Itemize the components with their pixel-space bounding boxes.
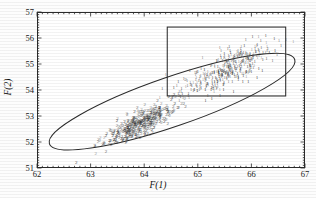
scatter-point: 2 xyxy=(97,139,100,144)
scatter-point: 1 xyxy=(207,93,210,98)
scatter-point: 1 xyxy=(285,37,288,42)
scatter-point: 1 xyxy=(190,86,193,91)
scatter-point: 1 xyxy=(223,51,226,56)
scatter-point: 1 xyxy=(229,50,232,55)
scatter-point: 1 xyxy=(202,71,205,76)
scatter-point: 1 xyxy=(235,51,238,56)
scatter-point: 1 xyxy=(188,68,191,73)
scatter-point: 2 xyxy=(133,122,136,127)
scatter-point: 1 xyxy=(173,85,176,90)
scatter-point: 2 xyxy=(160,112,163,117)
scatter-point: 1 xyxy=(256,54,259,59)
scatter-point: 1 xyxy=(248,62,251,67)
scatter-point: 1 xyxy=(198,86,201,91)
scatter-point: 1 xyxy=(245,37,248,42)
scatter-point: 1 xyxy=(214,74,217,79)
scatter-point: 1 xyxy=(171,94,174,99)
scatter-point: 1 xyxy=(211,96,214,101)
scatter-point: 1 xyxy=(227,56,230,61)
scatter-point: 1 xyxy=(256,74,259,79)
scatter-point: 1 xyxy=(274,47,277,52)
scatter-point: 1 xyxy=(243,43,246,48)
scatter-point: 2 xyxy=(150,110,153,115)
scatter-point: 2 xyxy=(129,127,132,132)
scatter-point: 1 xyxy=(218,66,221,71)
scatter-point: 2 xyxy=(158,104,161,109)
scatter-point: 2 xyxy=(143,109,146,114)
scatter-point: 2 xyxy=(136,105,139,110)
scatter-point: 1 xyxy=(276,52,279,57)
scatter-point: 1 xyxy=(241,70,244,75)
scatter-point: 1 xyxy=(240,43,243,48)
scatter-point: 2 xyxy=(143,122,146,127)
scatter-point: 1 xyxy=(252,54,255,59)
scatter-point: 2 xyxy=(121,138,124,143)
y-tick-label: 54 xyxy=(26,86,35,95)
scatter-points-layer: 2222222222222222222222222222222222222222… xyxy=(37,12,305,168)
scatter-point: 2 xyxy=(172,109,175,114)
scatter-point: 1 xyxy=(271,57,274,62)
scatter-point: 1 xyxy=(245,59,248,64)
scatter-point: 1 xyxy=(232,88,235,93)
y-tick-label: 56 xyxy=(26,34,35,43)
scatter-point: 1 xyxy=(278,38,281,43)
scatter-point: 1 xyxy=(265,32,268,37)
scatter-point: 1 xyxy=(239,50,242,55)
scatter-point: 2 xyxy=(116,118,119,123)
scatter-point: 1 xyxy=(204,97,207,102)
y-tick-label: 52 xyxy=(26,138,35,147)
scatter-point: 1 xyxy=(215,85,218,90)
y-tick-label: 55 xyxy=(26,60,35,69)
scatter-point: 1 xyxy=(210,86,213,91)
scatter-point: 1 xyxy=(195,76,198,81)
scatter-point: 2 xyxy=(139,135,142,140)
scatter-point: 1 xyxy=(178,98,181,103)
scatter-point: 2 xyxy=(102,141,105,146)
scatter-point: 1 xyxy=(234,67,237,72)
scatter-point: 1 xyxy=(273,36,276,41)
scatter-point: 2 xyxy=(156,116,159,121)
scatter-point: 1 xyxy=(247,79,250,84)
scatter-point: 2 xyxy=(108,137,111,142)
scatter-point: 1 xyxy=(206,72,209,77)
x-tick-label: 67 xyxy=(301,170,310,179)
scatter-point: 2 xyxy=(103,135,106,140)
scatter-point: 1 xyxy=(265,39,268,44)
scatter-point: 1 xyxy=(177,90,180,95)
scatter-point: 1 xyxy=(265,56,268,61)
scatter-point: 1 xyxy=(201,55,204,60)
scatter-point: 1 xyxy=(219,92,222,97)
scatter-point: 1 xyxy=(254,49,257,54)
scatter-point: 1 xyxy=(205,76,208,81)
scatter-point: 1 xyxy=(177,79,180,84)
scatter-point: 1 xyxy=(280,42,283,47)
scatter-point: 1 xyxy=(245,49,248,54)
scatter-point: 1 xyxy=(161,86,164,91)
scatter-point: 2 xyxy=(151,130,154,135)
scatter-point: 1 xyxy=(250,69,253,74)
scatter-point: 1 xyxy=(219,87,222,92)
scatter-point: 1 xyxy=(159,95,162,100)
scatter-point: 1 xyxy=(254,44,257,49)
scatter-point: 1 xyxy=(222,87,225,92)
scatter-point: 1 xyxy=(231,69,234,74)
scatter-point: 2 xyxy=(125,139,128,144)
x-axis-label: F(1) xyxy=(0,180,316,190)
scatter-point: 1 xyxy=(165,72,168,77)
scatter-point: 2 xyxy=(176,104,179,109)
scatter-point: 1 xyxy=(182,76,185,81)
scatter-point: 2 xyxy=(124,133,127,138)
scatter-point: 1 xyxy=(251,33,254,38)
scatter-point: 1 xyxy=(251,61,254,66)
x-tick-label: 62 xyxy=(33,170,42,179)
scatter-point: 1 xyxy=(257,33,260,38)
scatter-point: 2 xyxy=(75,159,78,164)
scatter-point: 1 xyxy=(219,45,222,50)
scatter-point: 1 xyxy=(205,83,208,88)
scatter-point: 1 xyxy=(241,79,244,84)
scatter-point: 2 xyxy=(139,128,142,133)
scatter-point: 1 xyxy=(182,95,185,100)
y-tick-label: 53 xyxy=(26,112,35,121)
scatter-point: 2 xyxy=(119,124,122,129)
scatter-point: 2 xyxy=(115,133,118,138)
